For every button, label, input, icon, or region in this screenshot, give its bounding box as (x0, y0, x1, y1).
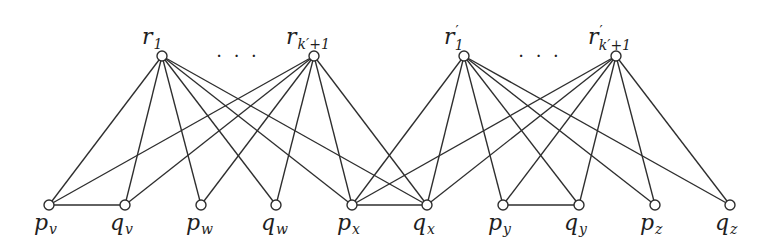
edge-rpk1-pz (616, 56, 655, 205)
node-qz (725, 200, 735, 210)
label-qy: qy (564, 210, 588, 237)
label-qx: qx (412, 210, 435, 237)
label-qv: qv (110, 210, 133, 237)
node-px (347, 200, 357, 210)
node-r1 (157, 51, 167, 61)
node-qy (574, 200, 584, 210)
ellipsis-0: · · · (216, 45, 260, 66)
label-pz: pz (640, 210, 663, 237)
node-qv (120, 200, 130, 210)
edge-rpk1-px (352, 56, 616, 205)
label-rk1: rk′+1 (286, 24, 330, 52)
label-pv: pv (34, 210, 57, 237)
edge-r1-pv (49, 56, 162, 205)
edge-rp1-px (352, 56, 464, 205)
edge-r1-qv (125, 56, 162, 205)
edge-rk1-pv (49, 56, 314, 205)
label-rpk1: r′k′+1 (588, 23, 631, 53)
edge-rpk1-qy (579, 56, 616, 205)
node-qw (271, 200, 281, 210)
graph-diagram: r1rk′+1r′1r′k′+1pvqvpwqwpxqxpyqypzqz · ·… (0, 0, 766, 250)
label-qw: qw (261, 210, 288, 237)
edge-rpk1-py (503, 56, 616, 205)
label-pw: pw (186, 210, 213, 237)
label-r1: r1 (142, 24, 162, 52)
edge-rk1-px (314, 56, 352, 205)
label-qz: qz (715, 210, 738, 237)
label-rp1: r′1 (444, 23, 464, 53)
edge-rk1-qw (276, 56, 314, 205)
edge-rp1-qx (427, 56, 464, 205)
label-px: px (337, 210, 360, 237)
label-py: py (488, 210, 512, 237)
edge-rpk1-qx (427, 56, 616, 205)
edges-layer (49, 56, 730, 205)
node-py (498, 200, 508, 210)
node-pz (650, 200, 660, 210)
node-qx (422, 200, 432, 210)
edge-rk1-qx (314, 56, 427, 205)
node-pv (44, 200, 54, 210)
node-pw (196, 200, 206, 210)
edge-rk1-qv (125, 56, 314, 205)
node-rk1 (309, 51, 319, 61)
edge-rpk1-qz (616, 56, 730, 205)
edge-rk1-pw (201, 56, 314, 205)
ellipsis-layer: · · ·· · · (216, 45, 562, 66)
ellipsis-1: · · · (518, 45, 562, 66)
